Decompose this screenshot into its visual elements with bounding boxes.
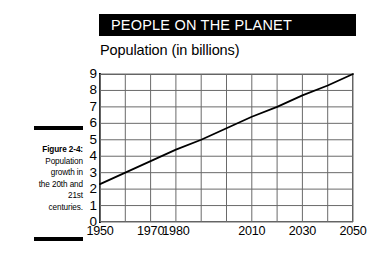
figure-caption-line-4: 21st xyxy=(10,190,83,202)
y-tick-label: 2 xyxy=(82,182,97,196)
y-tick-label: 6 xyxy=(82,116,97,130)
figure-caption-line-5: centuries. xyxy=(10,202,83,214)
y-tick-label: 4 xyxy=(82,149,97,163)
chart-subtitle: Population (in billions) xyxy=(100,41,239,59)
y-tick-label: 9 xyxy=(82,67,97,81)
x-axis-tick-labels: 195019701980201020302050 xyxy=(92,224,362,242)
x-tick-label: 2030 xyxy=(282,224,322,239)
chart-plot-area xyxy=(100,74,353,222)
header-bar: PEOPLE ON THE PLANET xyxy=(99,14,356,36)
x-tick-label: 2010 xyxy=(232,224,272,239)
y-tick-label: 1 xyxy=(82,199,97,213)
x-tick-label: 2050 xyxy=(333,224,373,239)
caption-rule-top-wrapper xyxy=(34,126,83,130)
caption-rule-bottom xyxy=(34,237,83,241)
series-polyline xyxy=(100,74,353,184)
figure-caption-line-3: the 20th and xyxy=(10,179,83,191)
y-tick-label: 5 xyxy=(82,133,97,147)
header-title: PEOPLE ON THE PLANET xyxy=(111,17,292,34)
y-tick-label: 7 xyxy=(82,100,97,114)
y-tick-label: 8 xyxy=(82,83,97,97)
y-axis-tick-labels: 0123456789 xyxy=(82,66,97,230)
y-tick-label: 3 xyxy=(82,166,97,180)
x-tick-label: 1980 xyxy=(156,224,196,239)
figure-page: Figure 2-4: Population growth in the 20t… xyxy=(0,0,385,259)
chart-series-line xyxy=(100,74,353,222)
figure-caption-line-2: growth in xyxy=(10,167,83,179)
figure-caption: Figure 2-4: Population growth in the 20t… xyxy=(10,144,83,214)
figure-caption-label: Figure 2-4: xyxy=(10,144,83,156)
figure-caption-line-1: Population xyxy=(10,156,83,168)
caption-rule-top xyxy=(34,126,83,130)
x-tick-label: 1950 xyxy=(80,224,120,239)
